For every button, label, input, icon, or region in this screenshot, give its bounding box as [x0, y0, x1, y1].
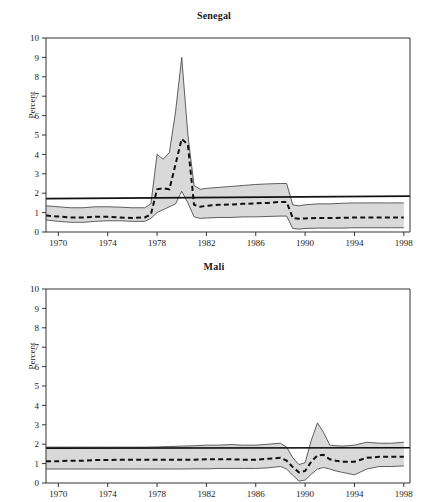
x-tick-label: 1978 [148, 489, 167, 499]
y-tick-label: 4 [35, 401, 40, 411]
x-tick-label: 1994 [345, 238, 364, 248]
y-tick-label: 3 [35, 169, 40, 179]
confidence-band [46, 423, 404, 481]
y-tick-label: 2 [35, 188, 40, 198]
plot-area-mali: 0123456789101970197419781982198619901994… [0, 251, 428, 502]
figure-container: Senegal Percent 012345678910197019741978… [0, 0, 428, 502]
y-tick-label: 4 [35, 150, 40, 160]
y-tick-label: 8 [35, 72, 40, 82]
chart-panel-senegal: Senegal Percent 012345678910197019741978… [0, 0, 428, 251]
y-tick-label: 2 [35, 439, 40, 449]
x-tick-label: 1998 [395, 489, 414, 499]
x-tick-label: 1974 [99, 238, 118, 248]
x-tick-label: 1986 [247, 489, 266, 499]
y-tick-label: 3 [35, 420, 40, 430]
x-tick-label: 1990 [296, 238, 315, 248]
y-tick-label: 9 [35, 304, 40, 314]
plot-area-senegal: 0123456789101970197419781982198619901994… [0, 0, 428, 251]
y-tick-label: 7 [35, 91, 40, 101]
y-tick-label: 9 [35, 53, 40, 63]
x-tick-label: 1986 [247, 238, 266, 248]
y-tick-label: 6 [35, 111, 40, 121]
plot-group: 0123456789101970197419781982198619901994… [30, 284, 413, 499]
x-tick-label: 1978 [148, 238, 167, 248]
y-tick-label: 0 [35, 227, 40, 237]
y-tick-label: 7 [35, 342, 40, 352]
y-tick-label: 1 [35, 459, 40, 469]
y-tick-label: 1 [35, 208, 40, 218]
upper-bound-line [46, 57, 404, 207]
x-tick-label: 1970 [49, 238, 68, 248]
chart-panel-mali: Mali Percent 012345678910197019741978198… [0, 251, 428, 502]
y-tick-label: 5 [35, 381, 40, 391]
x-tick-label: 1990 [296, 489, 315, 499]
y-tick-label: 6 [35, 362, 40, 372]
x-tick-label: 1982 [197, 238, 215, 248]
x-tick-label: 1998 [395, 238, 414, 248]
y-tick-label: 5 [35, 130, 40, 140]
y-tick-label: 0 [35, 478, 40, 488]
y-tick-label: 10 [30, 284, 40, 294]
x-tick-label: 1970 [49, 489, 68, 499]
x-tick-label: 1994 [345, 489, 364, 499]
x-tick-label: 1982 [197, 489, 215, 499]
y-tick-label: 8 [35, 323, 40, 333]
y-tick-label: 10 [30, 33, 40, 43]
plot-group: 0123456789101970197419781982198619901994… [30, 33, 413, 248]
x-tick-label: 1974 [99, 489, 118, 499]
